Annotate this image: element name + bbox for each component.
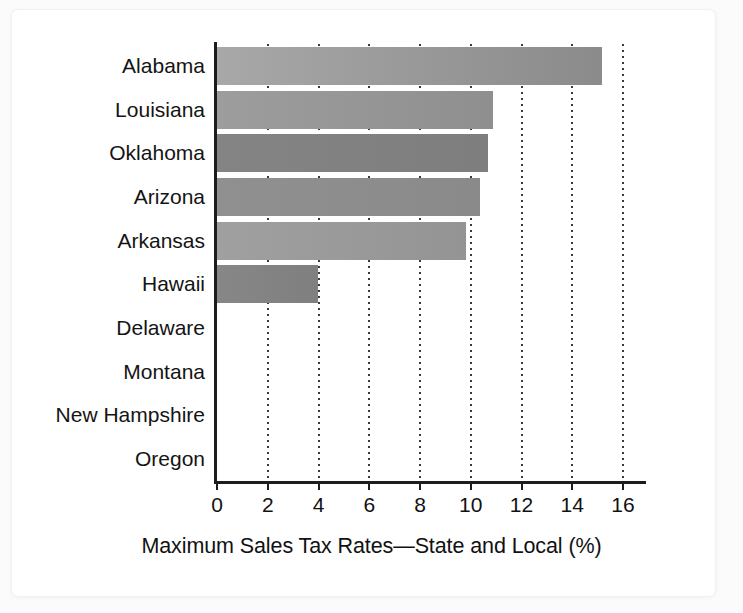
category-label-louisiana: Louisiana [0,99,205,120]
x-tick-mark-10 [470,481,472,490]
bars-layer [216,44,622,481]
category-label-arizona: Arizona [0,186,205,207]
bar-chart: 0246810121416 AlabamaLouisianaOklahomaAr… [0,0,743,613]
category-label-montana: Montana [0,361,205,382]
bar-louisiana[interactable] [216,91,493,129]
x-axis-title: Maximum Sales Tax Rates—State and Local … [0,534,743,559]
category-label-oklahoma: Oklahoma [0,142,205,163]
bar-arizona[interactable] [216,178,480,216]
x-tick-mark-16 [622,481,624,490]
x-tick-label-2: 2 [248,493,288,517]
x-tick-label-8: 8 [400,493,440,517]
x-tick-label-16: 16 [603,493,643,517]
x-tick-label-0: 0 [197,493,237,517]
bar-arkansas[interactable] [216,222,466,260]
x-tick-label-4: 4 [299,493,339,517]
category-label-oregon: Oregon [0,448,205,469]
category-label-alabama: Alabama [0,55,205,76]
x-tick-mark-14 [571,481,573,490]
chart-page: 0246810121416 AlabamaLouisianaOklahomaAr… [0,0,743,613]
y-axis-line [214,42,217,483]
x-tick-mark-0 [216,481,218,490]
x-tick-mark-8 [419,481,421,490]
x-tick-mark-12 [521,481,523,490]
x-tick-label-12: 12 [502,493,542,517]
category-label-new-hampshire: New Hampshire [0,404,205,425]
bar-oklahoma[interactable] [216,134,488,172]
category-label-delaware: Delaware [0,317,205,338]
x-tick-mark-2 [267,481,269,490]
gridline-16 [622,44,624,481]
x-tick-label-6: 6 [349,493,389,517]
x-tick-label-10: 10 [451,493,491,517]
bar-hawaii[interactable] [216,265,318,303]
x-tick-mark-6 [368,481,370,490]
x-tick-label-14: 14 [552,493,592,517]
bar-alabama[interactable] [216,47,602,85]
x-tick-mark-4 [318,481,320,490]
category-label-arkansas: Arkansas [0,230,205,251]
category-label-hawaii: Hawaii [0,273,205,294]
x-axis-line [214,481,646,484]
